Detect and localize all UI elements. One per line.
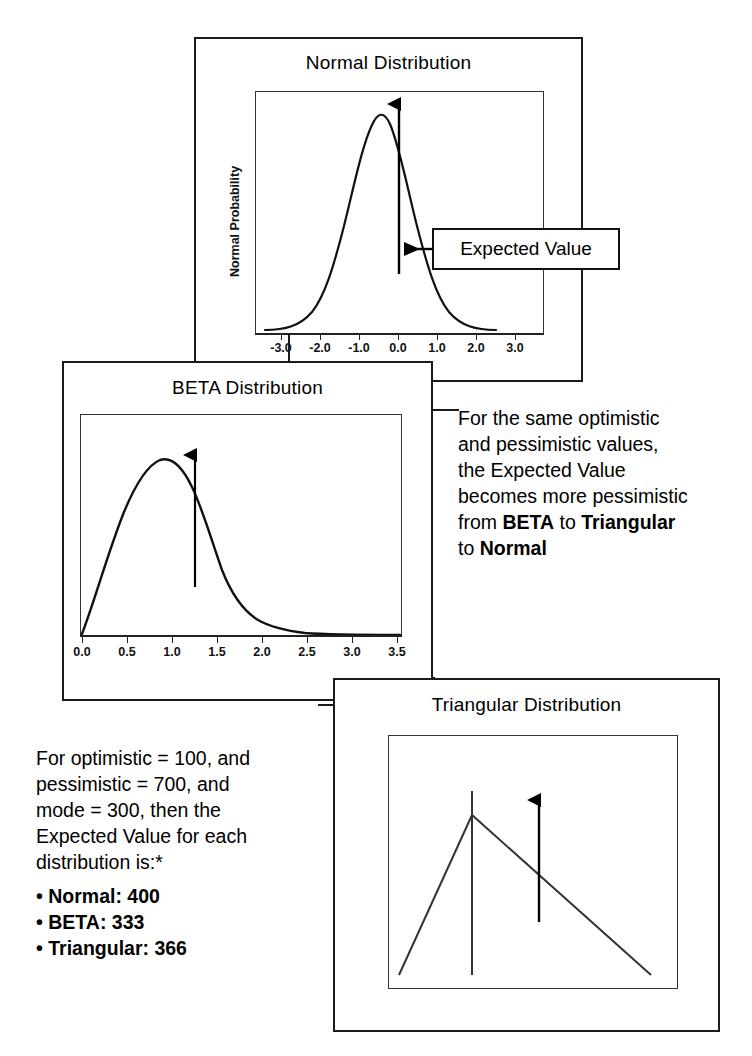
normal-tick (515, 334, 516, 340)
beta-tick-label: 3.5 (377, 645, 417, 659)
beta-tick-label: 1.5 (197, 645, 237, 659)
normal-tick-label: 1.0 (417, 341, 457, 355)
result-item-triangular: • Triangular: 366 (36, 935, 326, 961)
connector-beta-right-stub (433, 409, 459, 411)
note-comparison: For the same optimistic and pessimistic … (458, 405, 728, 561)
beta-tick-label: 0.0 (62, 645, 102, 659)
beta-tick (262, 637, 263, 643)
expected-value-callout[interactable]: Expected Value (432, 228, 620, 270)
normal-tick-label: -2.0 (300, 341, 340, 355)
note-comparison-beta: BETA (502, 511, 554, 533)
beta-tick-label: 0.5 (107, 645, 147, 659)
normal-tick-label: 3.0 (495, 341, 535, 355)
beta-tick-label: 1.0 (152, 645, 192, 659)
figure-root: Normal Distribution Normal Probability (0, 0, 752, 1056)
normal-tick-label: 2.0 (456, 341, 496, 355)
result-item-normal: • Normal: 400 (36, 883, 326, 909)
connector-normal-beta-horizontal (433, 380, 583, 382)
normal-tick (398, 334, 399, 340)
note-example-line2: pessimistic = 700, and (36, 773, 229, 795)
results-list: • Normal: 400 • BETA: 333 • Triangular: … (36, 883, 326, 961)
normal-axis-baseline (255, 333, 544, 335)
note-comparison-triangular: Triangular (581, 511, 675, 533)
note-example-line5: distribution is:* (36, 851, 163, 873)
note-comparison-line2: and pessimistic values, (458, 433, 659, 455)
triangular-plot-frame (388, 735, 678, 989)
note-comparison-line5-prefix: from (458, 511, 502, 533)
note-example-line4: Expected Value for each (36, 825, 247, 847)
beta-plot-frame (80, 414, 402, 636)
beta-tick (217, 637, 218, 643)
normal-tick-label: 0.0 (378, 341, 418, 355)
connector-beta-to-normal-vertical (288, 333, 290, 363)
note-comparison-line6-prefix: to (458, 537, 480, 559)
note-example: For optimistic = 100, and pessimistic = … (36, 745, 326, 875)
note-comparison-line3: the Expected Value (458, 459, 626, 481)
beta-tick (352, 637, 353, 643)
normal-tick (281, 334, 282, 340)
panel-triangular-title: Triangular Distribution (335, 694, 718, 716)
beta-axis-baseline (80, 635, 402, 637)
beta-tick (127, 637, 128, 643)
normal-tick-label: -1.0 (339, 341, 379, 355)
beta-tick-label: 2.0 (242, 645, 282, 659)
normal-y-axis-label: Normal Probability (228, 166, 242, 277)
note-comparison-normal: Normal (480, 537, 547, 559)
note-comparison-line1: For the same optimistic (458, 407, 660, 429)
panel-normal-title: Normal Distribution (196, 52, 581, 74)
panel-beta-title: BETA Distribution (64, 377, 431, 399)
beta-tick (172, 637, 173, 643)
beta-tick (397, 637, 398, 643)
beta-tick (307, 637, 308, 643)
result-item-beta: • BETA: 333 (36, 909, 326, 935)
note-comparison-line5-mid: to (554, 511, 581, 533)
beta-tick-label: 3.0 (332, 645, 372, 659)
normal-tick (320, 334, 321, 340)
expected-value-label: Expected Value (460, 238, 592, 260)
normal-tick (359, 334, 360, 340)
normal-tick (437, 334, 438, 340)
beta-tick-label: 2.5 (287, 645, 327, 659)
note-example-line1: For optimistic = 100, and (36, 747, 250, 769)
normal-plot-frame (255, 91, 544, 334)
beta-tick (82, 637, 83, 643)
note-example-line3: mode = 300, then the (36, 799, 221, 821)
note-comparison-line4: becomes more pessimistic (458, 485, 688, 507)
normal-tick (476, 334, 477, 340)
normal-tick-label: -3.0 (261, 341, 301, 355)
